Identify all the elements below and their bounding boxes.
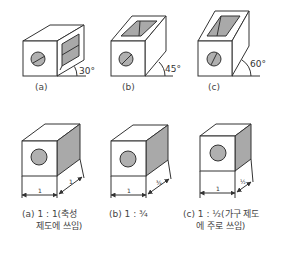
front-dim: 1	[216, 185, 220, 192]
caption-b: (b) 1 : ¾	[109, 209, 148, 219]
label-c-top: (c)	[208, 82, 220, 92]
cube-60-degree: 60° (c)	[198, 11, 266, 92]
cube-ratio-1-1-2: 1 ½ (c) 1 : ½(가구 제도 에 주로 쓰임)	[183, 124, 259, 231]
front-dim: 1	[127, 187, 131, 194]
caption-a-line1: (a) 1 : 1(축성	[22, 209, 77, 219]
label-a-top: (a)	[35, 82, 48, 92]
angle-label-30: 30°	[79, 66, 95, 76]
cube-ratio-1-1: 1 1 (a) 1 : 1(축성 제도에 쓰임)	[22, 124, 84, 231]
caption-a-line2: 제도에 쓰임)	[36, 220, 82, 231]
hole-icon	[31, 52, 45, 66]
angle-label-60: 60°	[250, 59, 266, 69]
cube-ratio-1-3-4: 1 ¾ (b) 1 : ¾	[109, 125, 171, 219]
hole-icon	[119, 52, 133, 66]
caption-c-line2: 에 주로 쓰임)	[196, 220, 245, 231]
depth-dim: ½	[240, 178, 246, 185]
depth-dim: 1	[69, 178, 73, 185]
caption-c-line1: (c) 1 : ½(가구 제도	[183, 209, 259, 219]
label-b-top: (b)	[122, 82, 135, 92]
oblique-projection-diagram: 30° (a) 45° (b) 60° (c)	[0, 0, 284, 255]
front-dim: 1	[38, 187, 42, 194]
hole-icon	[120, 151, 136, 167]
hole-icon	[207, 52, 221, 66]
hole-icon	[31, 149, 47, 165]
depth-dim: ¾	[156, 179, 162, 186]
angle-label-45: 45°	[165, 64, 181, 74]
cube-30-degree: 30° (a)	[23, 25, 95, 92]
hole-icon	[210, 145, 226, 161]
cube-45-degree: 45° (b)	[111, 16, 181, 92]
